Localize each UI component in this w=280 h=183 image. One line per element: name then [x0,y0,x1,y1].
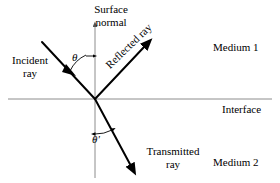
medium-2-label: Medium 2 [213,156,259,169]
interface-label: Interface [222,103,261,116]
incident-ray-label: Incident ray [2,54,58,80]
transmitted-ray-label: Transmitted ray [140,145,206,171]
angle-refraction-label: θ' [92,133,100,146]
surface-normal-label-line1: Surface [68,3,154,16]
medium-1-label: Medium 1 [213,41,259,54]
angle-incidence-label: θ [72,51,77,64]
incident-ray-label-line2: ray [2,67,58,80]
optics-refraction-diagram: Surface normal Incident ray Reflected ra… [0,0,280,183]
incident-ray-label-line1: Incident [2,54,58,67]
transmitted-ray-line [95,99,131,166]
transmitted-ray-label-line1: Transmitted [140,145,206,158]
transmitted-ray-label-line2: ray [140,158,206,171]
